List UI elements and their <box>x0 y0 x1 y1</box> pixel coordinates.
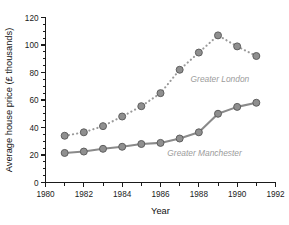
x-tick-label: 1992 <box>266 190 285 199</box>
x-tick-label: 1990 <box>228 190 247 199</box>
data-point-marker <box>234 43 241 50</box>
series-annotations: Greater LondonGreater Manchester <box>167 74 249 158</box>
data-point-marker <box>176 66 183 73</box>
y-tick-label: 0 <box>34 179 39 188</box>
y-tick-label: 40 <box>29 124 39 133</box>
data-point-marker <box>100 145 107 152</box>
data-point-marker <box>138 141 145 148</box>
data-point-marker <box>100 123 107 130</box>
data-point-marker <box>157 90 164 97</box>
y-tick-label: 60 <box>29 96 39 105</box>
y-axis-title: Average house price (£ thousands) <box>4 28 14 173</box>
y-tick-label: 20 <box>29 151 39 160</box>
data-point-marker <box>119 113 126 120</box>
line-chart: 020406080100120 198019821984198619881990… <box>0 0 289 225</box>
data-point-marker <box>253 99 260 106</box>
y-tick-label: 120 <box>25 14 39 23</box>
data-point-marker <box>157 139 164 146</box>
y-tick-label: 80 <box>29 69 39 78</box>
x-tick-label: 1986 <box>151 190 170 199</box>
data-point-marker <box>138 103 145 110</box>
x-axis: 1980198219841986198819901992 <box>36 183 285 200</box>
data-point-marker <box>195 49 202 56</box>
series-label-greater-london: Greater London <box>191 74 250 84</box>
data-point-marker <box>176 135 183 142</box>
data-point-marker <box>234 103 241 110</box>
data-point-marker <box>80 148 87 155</box>
data-series-group <box>61 32 260 157</box>
x-tick-label: 1984 <box>113 190 132 199</box>
data-point-marker <box>215 110 222 117</box>
x-tick-label: 1988 <box>190 190 209 199</box>
data-point-marker <box>195 129 202 136</box>
data-point-marker <box>61 132 68 139</box>
y-tick-label: 100 <box>25 41 39 50</box>
data-point-marker <box>215 32 222 39</box>
x-axis-title: Year <box>151 206 170 216</box>
data-point-marker <box>253 53 260 60</box>
x-tick-label: 1980 <box>36 190 55 199</box>
data-point-marker <box>119 143 126 150</box>
x-tick-label: 1982 <box>75 190 94 199</box>
chart-container: 020406080100120 198019821984198619881990… <box>0 0 289 225</box>
data-point-marker <box>80 129 87 136</box>
series-label-greater-manchester: Greater Manchester <box>167 148 243 158</box>
series-line <box>65 35 257 135</box>
data-point-marker <box>61 149 68 156</box>
y-axis: 020406080100120 <box>25 14 46 188</box>
